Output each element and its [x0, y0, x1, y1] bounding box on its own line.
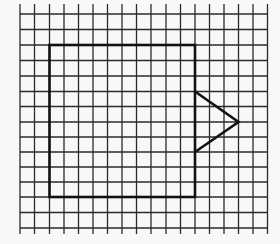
grid-svg	[0, 0, 280, 244]
grid-lines	[20, 4, 268, 234]
grid-diagram: Square with triangle on grid	[0, 0, 280, 244]
